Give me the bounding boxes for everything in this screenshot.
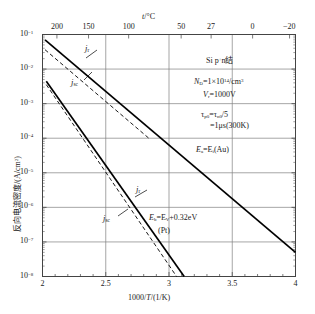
top-tick-label-2: 100 <box>123 23 135 31</box>
x-axis-title: 1000/T/(1/K) <box>128 294 170 302</box>
series-1-dashed <box>45 50 150 140</box>
y-tick-label-2: 10−3 <box>20 99 33 107</box>
annotation-pt-level: Eb=EV+0.32eV <box>149 214 197 223</box>
y-tick-label-6: 10−7 <box>20 237 33 245</box>
top-tick-label-6: −20 <box>283 23 296 31</box>
annotation-voltage: Vr=1000V <box>203 91 236 100</box>
top-tick-label-3: 50 <box>177 23 185 31</box>
annotation-pt: (Pt) <box>158 227 170 235</box>
y-tick-label-4: 10−5 <box>20 168 33 176</box>
annotation-lifetime-line1: τp0=τn0/5 <box>201 111 228 120</box>
x-tick-label-1: 2.5 <box>101 280 111 288</box>
y-tick-label-0: 10−1 <box>20 30 33 38</box>
x-tick-label-2: 3 <box>167 280 171 288</box>
x-tick-label-0: 2 <box>41 280 45 288</box>
x-tick-label-4: 4 <box>294 280 298 288</box>
y-tick-label-3: 10−4 <box>20 133 33 141</box>
curve-label-jr-pt: jr <box>136 185 140 195</box>
top-tick-label-1: 150 <box>83 23 95 31</box>
top-tick-label-0: 200 <box>51 23 63 31</box>
chart-svg <box>0 0 315 314</box>
x-tick-label-3: 3.5 <box>227 280 237 288</box>
curve-label-jsc-pt: jsc <box>103 214 110 224</box>
annotation-device: Si p+n结 <box>206 57 233 65</box>
series-3-dashed <box>46 85 176 277</box>
y-tick-label-5: 10−6 <box>20 202 33 210</box>
top-tick-label-5: 0 <box>251 23 255 31</box>
label-leader <box>118 209 128 216</box>
chart-figure: t/°C 反向电流密度/(A/cm2) 1000/T/(1/K) Si p+n结… <box>0 0 315 314</box>
annotation-lifetime-line2: =1μs(300K) <box>210 122 249 130</box>
top-tick-label-4: 27 <box>207 23 215 31</box>
series-2-solid <box>46 81 184 276</box>
top-axis-title: t/°C <box>142 13 155 21</box>
y-tick-label-7: 10−8 <box>20 272 33 280</box>
y-tick-label-1: 10−2 <box>20 64 33 72</box>
annotation-au-level: Ea=Ei(Au) <box>196 146 229 155</box>
curve-label-jr-au: jr <box>85 44 89 54</box>
annotation-doping: ND=1×1014/cm3 <box>194 78 243 87</box>
curve-label-jsc-au: jsc <box>71 78 78 88</box>
